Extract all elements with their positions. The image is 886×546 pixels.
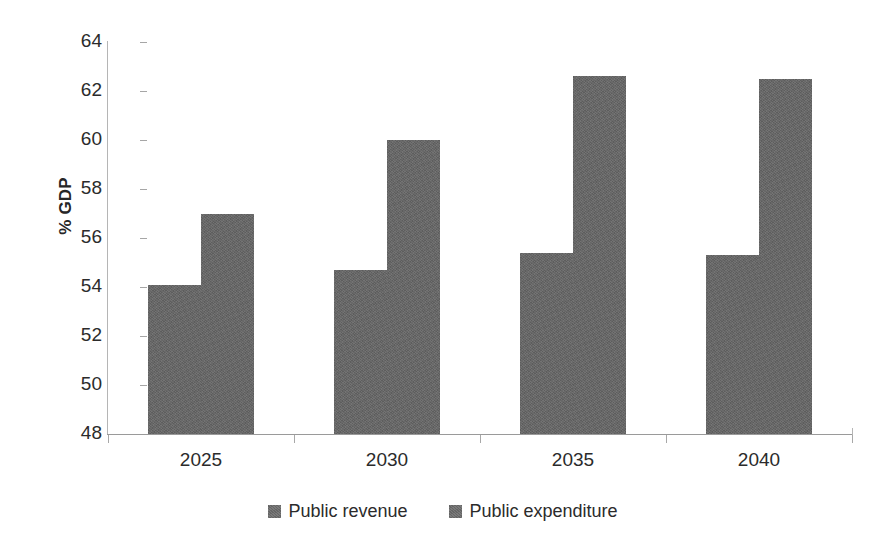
legend-swatch-icon bbox=[449, 505, 462, 518]
bar-group bbox=[480, 42, 666, 434]
x-axis-tick-label: 2030 bbox=[294, 449, 480, 471]
bar-public-expenditure-2040[interactable] bbox=[759, 79, 812, 434]
y-axis-ticks: 646260585654525048 bbox=[40, 0, 102, 546]
x-axis-tick-mark bbox=[480, 435, 481, 443]
bar-chart: % GDP 646260585654525048 202520302035204… bbox=[0, 0, 886, 546]
x-axis-tick-mark bbox=[852, 435, 853, 443]
x-axis-tick-label: 2035 bbox=[480, 449, 666, 471]
x-axis-tick-mark bbox=[666, 435, 667, 443]
legend-swatch-icon bbox=[268, 505, 281, 518]
bar-public-expenditure-2035[interactable] bbox=[573, 76, 626, 434]
y-axis-tick-label: 56 bbox=[56, 227, 102, 246]
y-axis-tick-label: 64 bbox=[56, 31, 102, 50]
bar-public-expenditure-2025[interactable] bbox=[201, 214, 254, 435]
y-axis-tick-label: 58 bbox=[56, 178, 102, 197]
x-axis-tick-mark bbox=[108, 435, 109, 443]
x-axis-tick-mark bbox=[294, 435, 295, 443]
bar-public-revenue-2040[interactable] bbox=[706, 255, 759, 434]
y-axis-tick-label: 54 bbox=[56, 276, 102, 295]
bar-group bbox=[666, 42, 852, 434]
bar-group bbox=[108, 42, 294, 434]
y-axis-tick-label: 50 bbox=[56, 374, 102, 393]
bar-public-expenditure-2030[interactable] bbox=[387, 140, 440, 434]
bar-group bbox=[294, 42, 480, 434]
legend-label: Public revenue bbox=[288, 501, 407, 522]
bar-public-revenue-2035[interactable] bbox=[520, 253, 573, 434]
y-axis-tick-label: 62 bbox=[56, 80, 102, 99]
x-axis-tick-label: 2040 bbox=[666, 449, 852, 471]
x-axis-tick-label: 2025 bbox=[108, 449, 294, 471]
bar-public-revenue-2025[interactable] bbox=[148, 285, 201, 434]
legend-item[interactable]: Public revenue bbox=[268, 501, 407, 522]
legend-item[interactable]: Public expenditure bbox=[449, 501, 617, 522]
y-axis-tick-label: 48 bbox=[56, 423, 102, 442]
x-axis-end-tick bbox=[852, 428, 853, 435]
legend-label: Public expenditure bbox=[469, 501, 617, 522]
chart-legend: Public revenuePublic expenditure bbox=[0, 498, 886, 524]
y-axis-tick-label: 60 bbox=[56, 129, 102, 148]
plot-area bbox=[108, 42, 852, 434]
y-axis-tick-label: 52 bbox=[56, 325, 102, 344]
bar-public-revenue-2030[interactable] bbox=[334, 270, 387, 434]
